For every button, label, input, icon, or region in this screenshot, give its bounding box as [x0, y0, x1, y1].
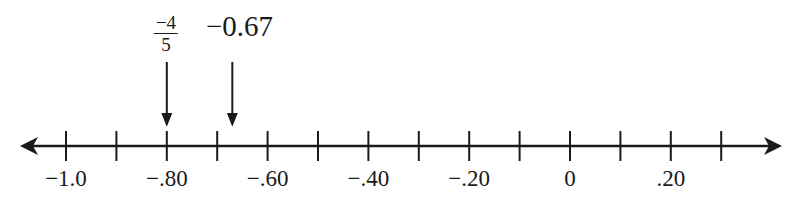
- down-arrow-icon: [228, 114, 236, 124]
- fraction-numerator: −4: [154, 12, 178, 34]
- tick-label: −.40: [348, 166, 390, 192]
- tick-label: −.80: [146, 166, 188, 192]
- number-line-diagram: −1.0−.80−.60−.40−.200.20 −4 5 −0.67: [0, 0, 796, 210]
- tick-label: −.20: [448, 166, 490, 192]
- tick-label: 0: [564, 166, 576, 192]
- marker-label-fraction: −4 5: [154, 12, 178, 55]
- tick-label: −.60: [247, 166, 289, 192]
- marker-label-decimal: −0.67: [206, 10, 273, 43]
- fraction-denominator: 5: [154, 34, 178, 55]
- down-arrow-icon: [163, 114, 171, 124]
- tick-label: −1.0: [45, 166, 87, 192]
- tick-label: .20: [656, 166, 685, 192]
- marker-arrows: [163, 62, 237, 124]
